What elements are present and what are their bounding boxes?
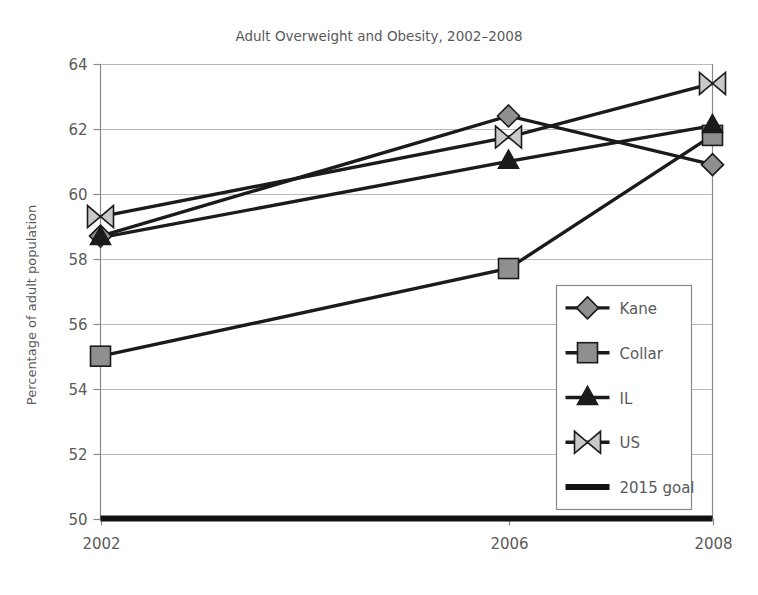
legend-label-kane: Kane [620,300,658,318]
y-tick-label: 56 [68,316,87,334]
legend-label-us: US [620,434,641,452]
y-tick-label: 62 [68,121,87,139]
legend[interactable]: KaneCollarILUS2015 goal [557,286,695,510]
y-tick-label: 58 [68,251,87,269]
y-tick-label: 50 [68,511,87,529]
chart-container: Adult Overweight and Obesity, 2002–2008 … [0,0,758,595]
data-point-collar [499,259,519,279]
legend-label-il: IL [620,390,633,408]
y-tick-label: 60 [68,186,87,204]
y-tick-label: 52 [68,446,87,464]
legend-label-collar: Collar [620,345,664,363]
chart-svg: Adult Overweight and Obesity, 2002–2008 … [0,0,758,595]
x-tick-label: 2008 [694,535,732,553]
legend-marker-collar [578,343,598,363]
x-tick-label: 2006 [490,535,528,553]
y-tick-label: 64 [68,56,87,74]
chart-title: Adult Overweight and Obesity, 2002–2008 [235,28,522,44]
legend-label-2015-goal: 2015 goal [620,479,695,497]
y-axis-title: Percentage of adult population [24,205,39,405]
data-point-collar [91,346,111,366]
x-tick-label: 2002 [82,535,120,553]
y-tick-label: 54 [68,381,87,399]
